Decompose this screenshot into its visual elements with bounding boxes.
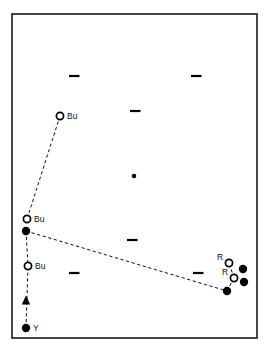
filled-circle-marker — [223, 287, 231, 295]
dash-tick-marker — [130, 110, 141, 112]
marker-label: R — [222, 267, 228, 277]
scatter-plot-canvas: BuBuBuRRY — [0, 0, 268, 348]
dash-tick-marker — [127, 239, 138, 241]
marker-label: Bu — [34, 214, 45, 224]
open-circle-marker — [225, 259, 232, 266]
open-circle-marker — [56, 112, 63, 119]
dash-tick-marker — [69, 272, 80, 274]
filled-circle-marker — [240, 278, 248, 286]
figure-root: BuBuBuRRY — [0, 0, 268, 348]
marker-label: Bu — [35, 261, 46, 271]
marker-label: R — [217, 252, 223, 262]
open-circle-marker — [23, 215, 30, 222]
dash-tick-marker — [193, 272, 204, 274]
marker-label: Y — [33, 323, 39, 333]
open-circle-marker — [230, 274, 237, 281]
filled-circle-marker — [22, 324, 30, 332]
filled-circle-marker — [22, 227, 30, 235]
dash-tick-marker — [191, 75, 202, 77]
dash-tick-marker — [69, 75, 80, 77]
filled-circle-marker — [239, 265, 247, 273]
open-circle-marker — [24, 262, 31, 269]
small-dot-marker — [132, 174, 137, 179]
marker-label: Bu — [67, 111, 78, 121]
